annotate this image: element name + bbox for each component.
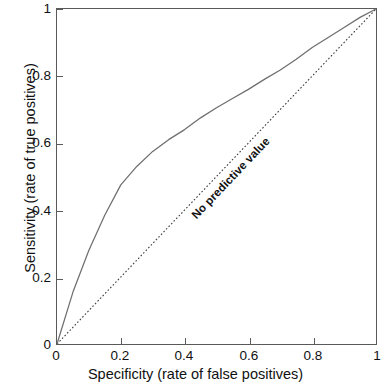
x-axis-title: Specificity (rate of false positives) xyxy=(0,366,391,382)
roc-curve-svg xyxy=(57,9,376,344)
roc-chart-figure: 1 0.8 0.6 0.4 0.2 0 0 0.2 0.4 0.6 0.8 1 … xyxy=(0,0,391,389)
plot-area: No predictive value xyxy=(56,8,377,345)
no-predictive-value-line xyxy=(57,9,376,344)
y-axis-title: Sensitivity (rate of true positives) xyxy=(22,8,38,328)
x-tick-label-0.6: 0.6 xyxy=(227,349,271,363)
roc-curve-line xyxy=(57,9,376,344)
x-tick-label-0.8: 0.8 xyxy=(291,349,335,363)
x-tick-label-0.2: 0.2 xyxy=(98,349,142,363)
x-tick-label-0: 0 xyxy=(34,349,78,363)
x-tick-label-1: 1 xyxy=(355,349,391,363)
x-tick-label-0.4: 0.4 xyxy=(162,349,206,363)
